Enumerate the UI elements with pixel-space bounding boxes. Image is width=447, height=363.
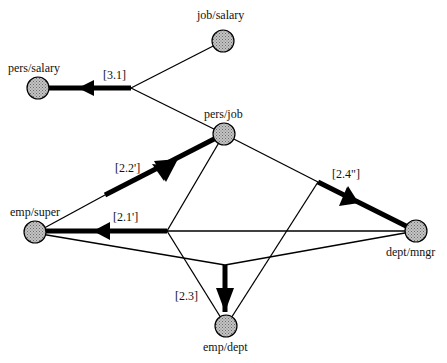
- arrow-2-3-head: [216, 288, 234, 312]
- label-job-salary: job/salary: [196, 8, 244, 22]
- label-pers-job: pers/job: [204, 107, 243, 121]
- arrow-2-4-shaft: [318, 182, 410, 228]
- arrow-2-1-head: [93, 222, 110, 240]
- dependency-diagram: pers/salary job/salary pers/job emp/supe…: [0, 0, 447, 363]
- node-pers-job[interactable]: [213, 123, 235, 145]
- arrow-3-1-head: [78, 80, 94, 96]
- label-edge-2-4: [2.4"]: [332, 167, 360, 181]
- label-emp-super: emp/super: [10, 205, 60, 219]
- label-edge-3-1: [3.1]: [103, 68, 126, 82]
- edge-emp-super-junction23: [35, 233, 225, 265]
- node-job-salary[interactable]: [212, 30, 234, 52]
- node-pers-salary[interactable]: [27, 77, 49, 99]
- edge-junction21-emp-dept: [167, 231, 226, 326]
- node-emp-dept[interactable]: [215, 315, 237, 337]
- label-edge-2-3: [2.3]: [175, 289, 198, 303]
- edge-pers-job-junction24: [224, 134, 318, 182]
- label-edge-2-1: [2.1']: [113, 210, 138, 224]
- label-edge-2-2: [2.2']: [115, 161, 140, 175]
- label-emp-dept: emp/dept: [203, 340, 248, 354]
- label-pers-salary: pers/salary: [8, 61, 60, 75]
- label-dept-mngr: dept/mngr: [386, 245, 435, 259]
- node-dept-mngr[interactable]: [405, 220, 427, 242]
- node-emp-super[interactable]: [24, 221, 46, 243]
- edge-junction24-emp-dept: [226, 182, 318, 326]
- edge-junction31-job-salary: [131, 41, 223, 88]
